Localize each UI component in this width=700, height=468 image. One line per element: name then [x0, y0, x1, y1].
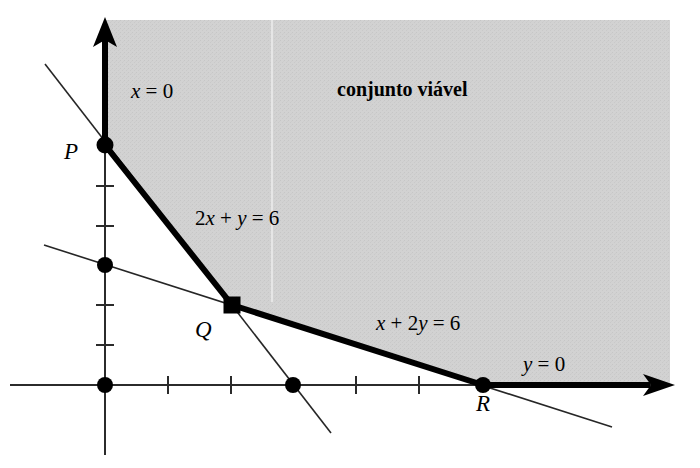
- vertex-p-label: P: [64, 140, 78, 163]
- point-x-intercept-3-marker: [285, 377, 301, 393]
- vertex-r-label: R: [476, 392, 490, 415]
- constraint-y-equals-0-label: y = 0: [523, 354, 565, 375]
- point-origin-marker: [97, 377, 113, 393]
- point-p-marker: [97, 137, 114, 154]
- line-x-plus-2y-equals-6-label: x + 2y = 6: [376, 313, 460, 334]
- line-2x-plus-y-equals-6-label: 2x + y = 6: [195, 208, 279, 229]
- vertex-q-label: Q: [195, 318, 212, 341]
- point-q-marker: [224, 297, 241, 314]
- constraint-x-equals-0-label: x = 0: [131, 81, 173, 102]
- point-y-intercept-3-marker: [97, 257, 113, 273]
- feasible-region-label: conjunto viável: [337, 79, 468, 99]
- feasible-region-diagram: [0, 0, 700, 468]
